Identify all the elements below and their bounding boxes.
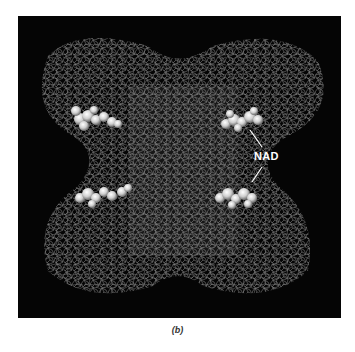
panel-caption: (b) [0, 325, 355, 335]
protein-mesh-graphic [18, 16, 341, 318]
nad-annotation-label: NAD [254, 150, 279, 162]
molecular-structure-image: NAD [18, 16, 341, 318]
